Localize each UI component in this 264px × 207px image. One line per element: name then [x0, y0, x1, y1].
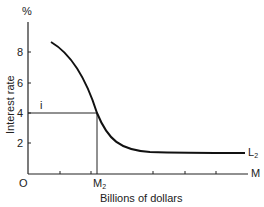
y-tick-label-4: 4 — [17, 108, 23, 119]
y-tick-label-6: 6 — [17, 78, 23, 89]
x-axis-end-label: M — [251, 168, 260, 179]
i-label: i — [40, 100, 42, 111]
x-axis-title: Billions of dollars — [100, 193, 183, 204]
m2-label-sub: 2 — [102, 183, 106, 190]
l2-label-sub: 2 — [254, 152, 258, 159]
y-axis-title: Interest rate — [4, 75, 16, 134]
curve-label-l2: L2 — [248, 147, 258, 158]
y-tick-label-2: 2 — [17, 138, 23, 149]
y-tick-label-8: 8 — [17, 47, 23, 58]
origin-label: O — [19, 178, 28, 189]
y-unit-label: % — [22, 6, 32, 17]
l2-curve — [51, 42, 245, 153]
m2-label-main: M — [93, 177, 102, 189]
m2-label: M2 — [93, 178, 106, 189]
